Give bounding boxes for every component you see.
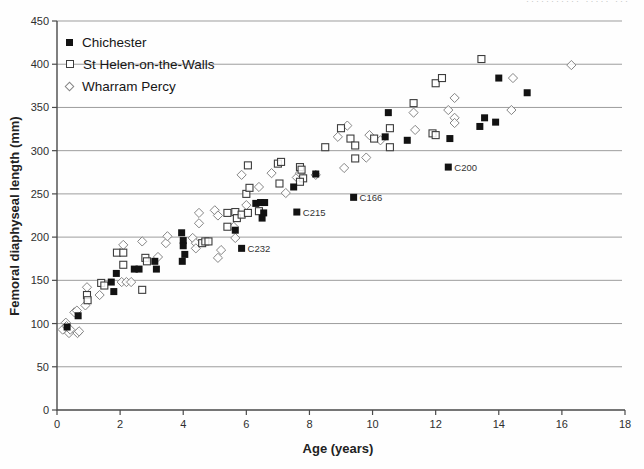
x-tick-label: 0 [54,418,60,430]
point-wharram-percy [507,105,516,114]
point-st-helen [410,100,417,107]
point-st-helen [352,155,359,162]
point-chichester [290,183,297,190]
point-st-helen [338,125,345,132]
point-wharram-percy [281,188,290,197]
point-chichester [136,266,143,273]
point-chichester [476,123,483,130]
point-wharram-percy [450,93,459,102]
x-tick-label: 18 [619,418,631,430]
point-chichester [312,171,319,178]
y-tick-label: 100 [31,318,49,330]
open-diamond-marker-icon [65,81,75,91]
annotation-c215: C215 [303,207,326,218]
y-tick-label: 300 [31,145,49,157]
annotation-c200: C200 [454,162,477,173]
legend-label-st-helen: St Helen-on-the-Walls [83,57,215,72]
y-tick-label: 150 [31,274,49,286]
scatter-figure: ··········· ····· ··· Femoral diaphyseal… [0,0,644,469]
point-wharram-percy [231,233,240,242]
legend-item-chichester: Chichester [66,31,215,53]
point-wharram-percy [194,219,203,228]
legend-item-wharram-percy: Wharram Percy [66,75,215,97]
point-chichester [259,215,266,222]
point-wharram-percy [333,132,342,141]
x-tick-label: 2 [117,418,123,430]
point-wharram-percy [95,290,104,299]
point-st-helen [438,75,445,82]
annotation-c166: C166 [360,192,383,203]
point-chichester [446,135,453,142]
point-st-helen [322,144,329,151]
point-st-helen [347,135,354,142]
point-chichester [404,137,411,144]
filled-square-marker-icon [66,39,73,46]
point-st-helen [224,223,231,230]
y-tick-label: 250 [31,188,49,200]
point-st-helen [143,258,150,265]
annotation-c232: C232 [248,243,271,254]
point-st-helen [101,282,108,289]
point-st-helen [244,162,251,169]
point-wharram-percy [362,153,371,162]
point-st-helen [276,180,283,187]
point-st-helen [120,261,127,268]
point-chichester [181,251,188,258]
y-tick-label: 0 [43,404,49,416]
point-chichester [382,133,389,140]
x-tick-label: 14 [493,418,505,430]
point-wharram-percy [444,105,453,114]
point-wharram-percy [82,283,91,292]
point-st-helen [278,158,285,165]
point-chichester [232,227,239,234]
point-st-helen [296,178,303,185]
point-chichester [64,324,71,331]
legend: Chichester St Helen-on-the-Walls Wharram… [66,31,215,97]
point-wharram-percy [267,169,276,178]
point-wharram-percy [163,232,172,241]
point-st-helen [352,142,359,149]
point-wharram-percy [194,208,203,217]
legend-label-wharram-percy: Wharram Percy [82,79,176,94]
point-st-helen [386,144,393,151]
point-st-helen [371,135,378,142]
point-wharram-percy [508,73,517,82]
point-wharram-percy [411,125,420,134]
point-chichester [261,199,268,206]
x-tick-label: 16 [556,418,568,430]
point-wharram-percy [119,240,128,249]
legend-label-chichester: Chichester [82,35,147,50]
x-tick-label: 6 [243,418,249,430]
point-wharram-percy [409,108,418,117]
point-chichester [180,242,187,249]
point-chichester [179,258,186,265]
point-wharram-percy [567,60,576,69]
point-wharram-percy [254,182,263,191]
point-wharram-percy [340,163,349,172]
point-chichester [151,258,158,265]
point-st-helen [84,297,91,304]
point-st-helen [246,184,253,191]
point-wharram-percy [237,170,246,179]
point-chichester [492,119,499,126]
point-chichester [524,89,531,96]
y-tick-label: 200 [31,231,49,243]
point-chichester [108,279,115,286]
point-st-helen [386,125,393,132]
x-tick-label: 4 [180,418,186,430]
point-st-helen [120,249,127,256]
point-wharram-percy [242,201,251,210]
x-tick-label: 12 [430,418,442,430]
point-chichester [350,194,357,201]
point-wharram-percy [138,237,147,246]
y-tick-label: 350 [31,101,49,113]
point-st-helen [205,238,212,245]
point-chichester [110,288,117,295]
point-st-helen [139,286,146,293]
point-st-helen [432,132,439,139]
legend-item-st-helen: St Helen-on-the-Walls [66,53,215,75]
point-chichester [481,114,488,121]
point-chichester [113,270,120,277]
point-chichester [385,109,392,116]
open-square-marker-icon [66,60,74,68]
